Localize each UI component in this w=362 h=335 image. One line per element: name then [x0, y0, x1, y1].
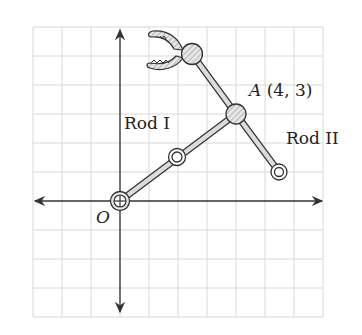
coordinate-diagram [0, 0, 362, 335]
rod1-mid-joint [169, 149, 186, 166]
rod-1-label: Rod I [124, 113, 170, 133]
upper-arm [192, 54, 236, 114]
point-a-label: A (4, 3) [249, 80, 312, 100]
rod2-end-joint [271, 164, 287, 180]
point-a-coords: (4, 3) [267, 80, 313, 100]
origin-pivot-icon [111, 192, 130, 211]
point-a-name: A [249, 80, 261, 100]
joint-a [226, 104, 246, 124]
rod-2-label: Rod II [286, 128, 339, 148]
gripper-joint [182, 44, 203, 65]
origin-label: O [96, 207, 110, 227]
